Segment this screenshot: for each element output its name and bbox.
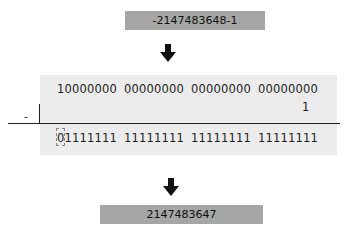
result-byte-1: 01111111	[57, 131, 117, 145]
result-byte-4: 11111111	[258, 131, 318, 145]
down-arrow-icon	[163, 178, 179, 196]
result-label: 2147483647	[147, 208, 217, 221]
minuend-byte-2: 00000000	[124, 82, 184, 96]
vertical-divider	[39, 104, 40, 124]
subtrahend: 1	[302, 100, 310, 114]
expression-box: -2147483648-1	[125, 11, 265, 30]
result-byte-2: 11111111	[124, 131, 184, 145]
result-box: 2147483647	[100, 205, 263, 224]
expression-label: -2147483648-1	[153, 14, 238, 27]
minuend-byte-3: 00000000	[191, 82, 251, 96]
minus-operator: -	[24, 110, 28, 123]
minuend-byte-4: 00000000	[258, 82, 318, 96]
result-byte-3: 11111111	[191, 131, 251, 145]
sum-line	[8, 123, 340, 124]
minuend-byte-1: 10000000	[57, 82, 117, 96]
down-arrow-icon	[160, 44, 176, 62]
